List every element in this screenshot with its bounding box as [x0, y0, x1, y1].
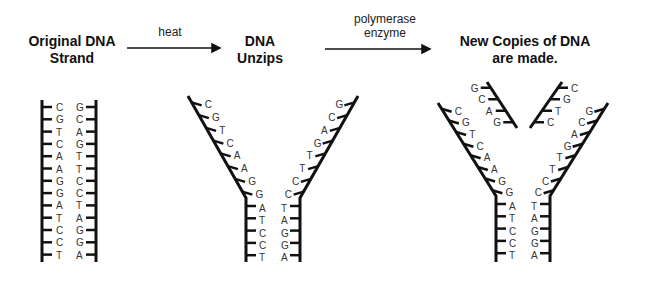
svg-text:C: C	[292, 176, 299, 187]
svg-text:T: T	[219, 125, 225, 136]
svg-text:C: C	[509, 226, 516, 237]
svg-text:G: G	[585, 106, 593, 117]
svg-text:G: G	[564, 141, 572, 152]
svg-text:G: G	[505, 187, 513, 198]
svg-text:G: G	[563, 94, 571, 105]
svg-text:A: A	[281, 215, 288, 226]
svg-text:T: T	[509, 213, 515, 224]
svg-text:A: A	[56, 164, 63, 175]
svg-text:G: G	[335, 99, 343, 110]
svg-text:T: T	[56, 250, 62, 261]
svg-text:G: G	[531, 226, 539, 237]
svg-text:G: G	[314, 138, 322, 149]
svg-text:C: C	[226, 138, 233, 149]
svg-text:A: A	[56, 151, 63, 162]
svg-text:C: C	[56, 139, 63, 150]
svg-text:T: T	[56, 213, 62, 224]
svg-text:C: C	[535, 187, 542, 198]
svg-text:C: C	[478, 94, 485, 105]
svg-text:C: C	[76, 176, 83, 187]
svg-text:G: G	[255, 189, 263, 200]
new-copies-strand: CGGCTACGATATGCGCATTACGCGTAGCCGATGC	[438, 82, 608, 262]
svg-text:A: A	[76, 213, 83, 224]
svg-text:G: G	[212, 112, 220, 123]
svg-text:A: A	[486, 106, 493, 117]
svg-text:G: G	[56, 114, 64, 125]
svg-text:T: T	[549, 164, 555, 175]
svg-text:T: T	[259, 252, 265, 263]
svg-text:G: G	[76, 225, 84, 236]
svg-text:G: G	[76, 102, 84, 113]
dna-diagram: CGGCTACGATATGCGCATTACGCGTA CGGCTACGATATG…	[0, 0, 652, 282]
svg-text:G: G	[471, 83, 479, 94]
svg-text:C: C	[455, 106, 462, 117]
svg-text:G: G	[498, 176, 506, 187]
svg-text:G: G	[56, 176, 64, 187]
svg-text:T: T	[76, 164, 82, 175]
svg-text:T: T	[281, 203, 287, 214]
svg-text:C: C	[205, 99, 212, 110]
svg-text:A: A	[484, 152, 491, 163]
svg-text:A: A	[281, 252, 288, 263]
svg-text:A: A	[76, 127, 83, 138]
svg-text:A: A	[321, 125, 328, 136]
svg-text:C: C	[578, 117, 585, 128]
svg-text:C: C	[509, 238, 516, 249]
svg-text:G: G	[76, 237, 84, 248]
svg-text:T: T	[306, 150, 312, 161]
svg-text:T: T	[469, 129, 475, 140]
unzipped-strand: CGGCTACGATATGCGCATTACGCGTA	[188, 96, 358, 263]
svg-text:A: A	[509, 201, 516, 212]
svg-text:A: A	[531, 250, 538, 261]
svg-text:A: A	[76, 250, 83, 261]
polymerase-arrow	[325, 45, 430, 53]
svg-text:C: C	[56, 102, 63, 113]
svg-text:C: C	[259, 228, 266, 239]
heat-arrow	[127, 44, 220, 52]
svg-text:C: C	[259, 240, 266, 251]
svg-text:G: G	[56, 188, 64, 199]
svg-text:C: C	[328, 112, 335, 123]
svg-text:C: C	[476, 141, 483, 152]
svg-text:T: T	[531, 201, 537, 212]
svg-text:A: A	[241, 163, 248, 174]
svg-text:A: A	[259, 203, 266, 214]
svg-text:T: T	[556, 152, 562, 163]
svg-text:A: A	[56, 200, 63, 211]
svg-text:T: T	[299, 163, 305, 174]
svg-text:A: A	[571, 129, 578, 140]
svg-text:T: T	[555, 106, 561, 117]
svg-text:G: G	[76, 139, 84, 150]
svg-text:G: G	[493, 117, 501, 128]
svg-text:G: G	[462, 117, 470, 128]
svg-text:A: A	[491, 164, 498, 175]
original-strand: CGGCTACGATATGCGCATTACGCGTA	[42, 100, 96, 262]
svg-text:T: T	[56, 127, 62, 138]
svg-text:G: G	[281, 240, 289, 251]
svg-text:C: C	[76, 188, 83, 199]
svg-text:T: T	[509, 250, 515, 261]
svg-text:G: G	[248, 176, 256, 187]
svg-text:C: C	[285, 189, 292, 200]
svg-text:C: C	[56, 225, 63, 236]
svg-text:C: C	[571, 83, 578, 94]
svg-text:T: T	[259, 215, 265, 226]
svg-text:T: T	[76, 151, 82, 162]
svg-text:C: C	[56, 237, 63, 248]
svg-text:G: G	[531, 238, 539, 249]
svg-text:G: G	[281, 228, 289, 239]
svg-text:A: A	[234, 150, 241, 161]
svg-text:A: A	[531, 213, 538, 224]
svg-text:C: C	[76, 114, 83, 125]
svg-text:C: C	[547, 117, 554, 128]
svg-text:C: C	[542, 176, 549, 187]
svg-text:T: T	[76, 200, 82, 211]
